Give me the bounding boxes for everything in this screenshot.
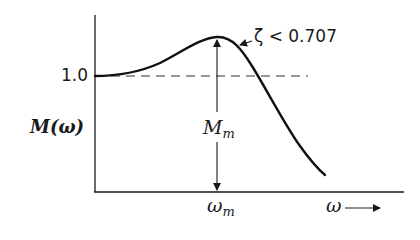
magnitude-curve <box>95 37 325 175</box>
peak-magnitude-label: Mm <box>203 118 235 140</box>
peak-magnitude-subscript: m <box>222 126 234 141</box>
peak-frequency-label: ωm <box>207 196 235 218</box>
peak-frequency-symbol: ω <box>207 194 223 216</box>
zeta-annotation-arrow <box>240 41 252 45</box>
peak-frequency-subscript: m <box>223 204 235 219</box>
peak-magnitude-symbol: M <box>203 116 222 138</box>
x-axis-label: ω <box>326 196 342 215</box>
damping-ratio-annotation: ζ < 0.707 <box>254 28 337 45</box>
reference-level-label: 1.0 <box>61 67 88 84</box>
y-axis-label: M(ω) <box>30 118 84 136</box>
